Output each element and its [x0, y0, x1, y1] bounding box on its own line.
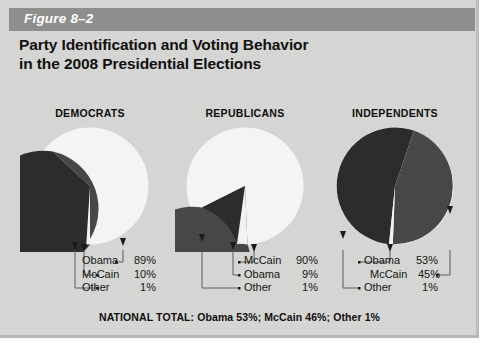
label-pct-mccain-republicans: 90%	[284, 254, 318, 268]
pie-labels-independents: Obama 53% McCain 45% Other 1%	[364, 254, 444, 295]
label-row-mccain-independents: McCain 45%	[364, 268, 444, 282]
pie-svg-republicans	[175, 124, 315, 252]
label-name-other-democrats: Other	[82, 281, 110, 295]
label-name-obama-independents: Obama	[364, 254, 400, 268]
label-pct-other-democrats: 1%	[122, 281, 156, 295]
leader-dot-other-independents	[358, 287, 361, 290]
label-pct-obama-democrats: 89%	[122, 254, 156, 268]
label-row-obama-democrats: Obama 89%	[82, 254, 160, 268]
label-row-other-democrats: Other 1%	[82, 281, 160, 295]
pie-labels-democrats: Obama 89% McCain 10% Other 1%	[82, 254, 160, 295]
pie-svg-democrats	[20, 124, 160, 252]
label-row-other-independents: Other 1%	[364, 281, 444, 295]
label-row-mccain-democrats: McCain 10%	[82, 268, 160, 282]
label-name-mccain-republicans: McCain	[244, 254, 281, 268]
label-pct-obama-republicans: 9%	[284, 268, 318, 282]
leader-dot-obama-republicans	[238, 274, 241, 277]
pie-title-independents: INDEPENDENTS	[325, 107, 465, 119]
label-pct-mccain-independents: 45%	[406, 268, 440, 282]
plate-edge-bottom	[0, 335, 479, 338]
label-name-other-republicans: Other	[244, 281, 272, 295]
figure-root: Figure 8–2 Party Identification and Voti…	[0, 0, 490, 344]
national-total-text: NATIONAL TOTAL: Obama 53%; McCain 46%; O…	[0, 311, 479, 323]
leader-dot-other-republicans	[238, 287, 241, 290]
label-pct-obama-independents: 53%	[404, 254, 438, 268]
label-pct-other-independents: 1%	[404, 281, 438, 295]
label-pct-mccain-democrats: 10%	[122, 268, 156, 282]
label-row-other-republicans: Other 1%	[244, 281, 316, 295]
pie-labels-republicans: McCain 90% Obama 9% Other 1%	[244, 254, 316, 295]
label-name-mccain-independents: McCain	[370, 268, 407, 282]
label-name-other-independents: Other	[364, 281, 392, 295]
label-name-obama-democrats: Obama	[82, 254, 118, 268]
leader-dot-obama-independents	[358, 261, 361, 264]
pie-title-democrats: DEMOCRATS	[20, 107, 160, 119]
leader-arrow-other-independents	[340, 231, 346, 239]
plate-edge-right	[476, 0, 479, 338]
leader-arrow-obama-democrats	[120, 238, 126, 246]
leader-dot-mccain-republicans	[238, 261, 241, 264]
label-pct-other-republicans: 1%	[284, 281, 318, 295]
label-name-obama-republicans: Obama	[244, 268, 280, 282]
label-row-obama-independents: Obama 53%	[364, 254, 444, 268]
label-row-mccain-republicans: McCain 90%	[244, 254, 316, 268]
pie-title-republicans: REPUBLICANS	[175, 107, 315, 119]
label-row-obama-republicans: Obama 9%	[244, 268, 316, 282]
pie-chart-group: DEMOCRATS	[0, 0, 479, 338]
figure-plate: Figure 8–2 Party Identification and Voti…	[0, 0, 479, 338]
leader-line-other-independents	[343, 250, 359, 288]
pie-svg-independents	[325, 124, 465, 252]
label-name-mccain-democrats: McCain	[82, 268, 119, 282]
